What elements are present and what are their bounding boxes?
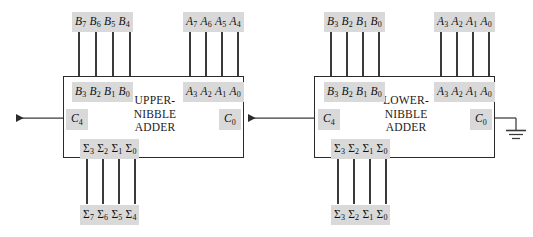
pin-A1: A1 — [466, 84, 477, 100]
pin-sigma3: Σ3 — [334, 141, 345, 157]
bit-sigma6: Σ6 — [97, 207, 108, 223]
bit-B4: B4 — [119, 14, 130, 30]
bit-A6: A6 — [201, 14, 212, 30]
pin-B2: B2 — [342, 84, 353, 100]
bit-B3: B3 — [327, 14, 338, 30]
bit-A2: A2 — [452, 14, 463, 30]
lower-nibble-adder-title: LOWER- NIBBLE ADDER — [381, 94, 431, 135]
lower-title-line-3: ADDER — [381, 121, 431, 135]
pin-B3: B3 — [75, 84, 86, 100]
bit-A0: A0 — [481, 14, 492, 30]
lower-block-carry-out-label: C4 — [318, 109, 340, 130]
pin-A3: A3 — [437, 84, 448, 100]
bit-B0: B0 — [371, 14, 382, 30]
bit-B7: B7 — [75, 14, 86, 30]
external-output-label-upper-sum: Σ7Σ6Σ5Σ4 — [80, 205, 139, 225]
lower-block-carry-in-label: C0 — [470, 109, 492, 130]
pin-A2: A2 — [201, 84, 212, 100]
external-input-label-upper-a: A7A6A5A4 — [183, 12, 244, 32]
pin-sigma2: Σ2 — [97, 141, 108, 157]
pin-C0: C0 — [475, 112, 487, 124]
upper-block-carry-in-label: C0 — [219, 109, 241, 130]
bit-sigma7: Σ7 — [83, 207, 94, 223]
pin-B3: B3 — [327, 84, 338, 100]
upper-block-sum-output-label: Σ3Σ2Σ1Σ0 — [80, 139, 139, 159]
bit-B6: B6 — [90, 14, 101, 30]
pin-A0: A0 — [481, 84, 492, 100]
external-input-label-lower-a: A3A2A1A0 — [434, 12, 495, 32]
bit-B5: B5 — [104, 14, 115, 30]
pin-C4: C4 — [71, 112, 83, 124]
pin-sigma1: Σ1 — [111, 141, 122, 157]
pin-C4: C4 — [323, 112, 335, 124]
pin-A3: A3 — [186, 84, 197, 100]
upper-title-line-2: NIBBLE — [130, 108, 180, 122]
upper-title-line-3: ADDER — [130, 121, 180, 135]
pin-sigma0: Σ0 — [377, 141, 388, 157]
bit-A1: A1 — [466, 14, 477, 30]
bit-sigma3: Σ3 — [334, 207, 345, 223]
upper-nibble-adder-title: UPPER- NIBBLE ADDER — [130, 94, 180, 135]
pin-sigma2: Σ2 — [348, 141, 359, 157]
pin-A0: A0 — [230, 84, 241, 100]
bit-A5: A5 — [215, 14, 226, 30]
bit-sigma1: Σ1 — [362, 207, 373, 223]
lower-title-line-1: LOWER- — [381, 94, 431, 108]
bit-B1: B1 — [356, 14, 367, 30]
bit-sigma4: Σ4 — [126, 207, 137, 223]
bit-A3: A3 — [437, 14, 448, 30]
lower-block-a-input-label: A3A2A1A0 — [434, 82, 495, 102]
lower-block-b-input-label: B3B2B1B0 — [324, 82, 385, 102]
pin-sigma3: Σ3 — [83, 141, 94, 157]
upper-block-a-input-label: A3A2A1A0 — [183, 82, 244, 102]
lower-block-sum-output-label: Σ3Σ2Σ1Σ0 — [331, 139, 390, 159]
upper-block-carry-out-label: C4 — [66, 109, 88, 130]
external-input-label-lower-b: B3B2B1B0 — [324, 12, 385, 32]
pin-B1: B1 — [356, 84, 367, 100]
pin-sigma0: Σ0 — [126, 141, 137, 157]
pin-B0: B0 — [119, 84, 130, 100]
pin-A1: A1 — [215, 84, 226, 100]
nibble-adder-diagram: UPPER- NIBBLE ADDER B7B6B5B4 A7A6A5A4 B3… — [0, 0, 533, 237]
pin-B1: B1 — [104, 84, 115, 100]
bit-sigma0: Σ0 — [377, 207, 388, 223]
external-output-label-lower-sum: Σ3Σ2Σ1Σ0 — [331, 205, 390, 225]
pin-B0: B0 — [371, 84, 382, 100]
pin-B2: B2 — [90, 84, 101, 100]
pin-A2: A2 — [452, 84, 463, 100]
bit-sigma2: Σ2 — [348, 207, 359, 223]
upper-block-b-input-label: B3B2B1B0 — [72, 82, 133, 102]
bit-A4: A4 — [230, 14, 241, 30]
external-input-label-upper-b: B7B6B5B4 — [72, 12, 133, 32]
pin-C0: C0 — [224, 112, 236, 124]
bit-sigma5: Σ5 — [111, 207, 122, 223]
bit-A7: A7 — [186, 14, 197, 30]
pin-sigma1: Σ1 — [362, 141, 373, 157]
upper-title-line-1: UPPER- — [130, 94, 180, 108]
lower-title-line-2: NIBBLE — [381, 108, 431, 122]
bit-B2: B2 — [342, 14, 353, 30]
